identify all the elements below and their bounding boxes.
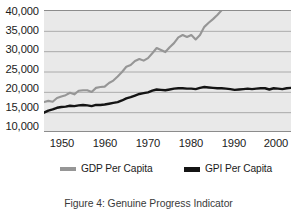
y-tick-label-35000: 35,000 <box>5 25 39 36</box>
legend-label-gdp: GDP Per Capita <box>81 163 152 175</box>
figure-genuine-progress-indicator: 40,000 35,000 30,000 25,000 20,000 15,00… <box>0 0 297 213</box>
x-tick-label-2000: 2000 <box>264 137 289 150</box>
x-tick-label-1990: 1990 <box>222 137 247 150</box>
x-tick-label-1950: 1950 <box>50 137 75 150</box>
chart-legend: GDP Per Capita GPI Per Capita <box>44 163 291 177</box>
x-tick-label-1980: 1980 <box>179 137 204 150</box>
legend-label-gpi: GPI Per Capita <box>205 163 272 175</box>
y-axis: 40,000 35,000 30,000 25,000 20,000 15,00… <box>0 0 42 140</box>
legend-entry-gdp-per-capita: GDP Per Capita <box>60 163 152 175</box>
plot-canvas <box>44 11 291 133</box>
y-tick-label-10000: 10,000 <box>5 121 39 132</box>
figure-caption: Figure 4: Genuine Progress Indicator <box>0 198 297 210</box>
gridlines <box>44 31 291 112</box>
legend-swatch-icon-gpi <box>184 167 200 172</box>
y-tick-label-25000: 25,000 <box>5 64 39 75</box>
legend-swatch-icon-gdp <box>60 167 76 171</box>
legend-entry-gpi-per-capita: GPI Per Capita <box>184 163 272 175</box>
y-tick-label-15000: 15,000 <box>5 102 39 113</box>
y-tick-label-40000: 40,000 <box>5 6 39 17</box>
x-tick-label-1970: 1970 <box>136 137 161 150</box>
y-tick-label-20000: 20,000 <box>5 83 39 94</box>
x-tick-label-1960: 1960 <box>93 137 118 150</box>
data-series-layer <box>44 11 291 113</box>
x-axis: 1950 1960 1970 1980 1990 2000 <box>44 137 291 153</box>
y-tick-label-30000: 30,000 <box>5 44 39 55</box>
plot-area <box>44 10 291 132</box>
